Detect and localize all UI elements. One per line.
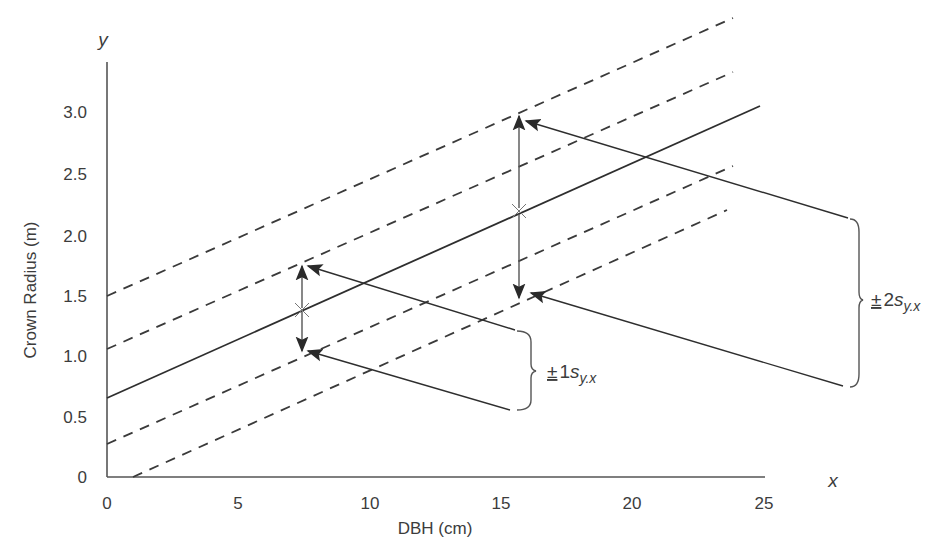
axes <box>107 62 765 477</box>
leader-line-lower-1s <box>308 351 510 410</box>
band-minus-1s <box>107 166 733 444</box>
brace-2s <box>850 219 863 387</box>
y-tick: 1.0 <box>63 347 87 366</box>
y-axis-title: Crown Radius (m) <box>21 222 40 359</box>
x-var-label: x <box>827 470 839 491</box>
band-plus-2s <box>107 18 733 296</box>
x-tick: 20 <box>623 494 642 513</box>
regression-line <box>107 106 760 398</box>
y-tick: 3.0 <box>63 103 87 122</box>
y-tick: 0 <box>78 468 87 487</box>
series <box>107 18 760 477</box>
brace-1s <box>517 331 536 410</box>
annotation-label-1s: ±1sy.x <box>547 361 597 386</box>
leader-line-upper-2s <box>526 121 848 218</box>
band-plus-1s <box>107 72 733 349</box>
annotation-label-2s: ±2sy.x <box>871 289 921 314</box>
x-tick: 5 <box>233 494 242 513</box>
annotation-2s: ±2sy.x <box>512 116 921 387</box>
x-tick: 0 <box>102 494 111 513</box>
x-axis-title: DBH (cm) <box>398 519 473 538</box>
band-minus-2s <box>133 210 727 477</box>
y-tick: 0.5 <box>63 408 87 427</box>
x-tick: 10 <box>361 494 380 513</box>
annotation-1s: ±1sy.x <box>295 266 597 410</box>
x-tick: 15 <box>492 494 511 513</box>
x-tick: 25 <box>755 494 774 513</box>
y-tick: 2.0 <box>63 227 87 246</box>
leader-line-upper-1s <box>308 266 515 330</box>
x-tick-labels: 0 5 10 15 20 25 <box>102 494 773 513</box>
y-var-label: y <box>96 29 109 50</box>
chart: y x 0 0.5 1.0 1.5 2.0 2.5 3.0 0 5 10 15 … <box>0 0 946 558</box>
y-tick: 2.5 <box>63 165 87 184</box>
y-tick: 1.5 <box>63 287 87 306</box>
y-tick-labels: 0 0.5 1.0 1.5 2.0 2.5 3.0 <box>63 103 87 487</box>
